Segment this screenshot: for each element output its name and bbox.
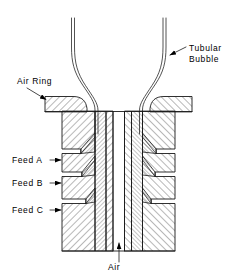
label-tubular-bubble: Tubular Bubble: [189, 43, 222, 65]
label-feed-c: Feed C: [12, 205, 43, 216]
label-feed-b: Feed B: [12, 178, 43, 189]
die-body-left: [62, 112, 95, 252]
label-air: Air: [108, 262, 120, 273]
label-air-ring: Air Ring: [17, 76, 52, 87]
die-body-right: [143, 112, 176, 252]
leader-tubular-bubble: [170, 47, 186, 55]
die-cross-section-drawing: [0, 0, 240, 278]
label-tubular-bubble-line2: Bubble: [189, 54, 222, 65]
leader-air-ring: [27, 88, 46, 100]
label-feed-a: Feed A: [12, 155, 43, 166]
blown-film-die-figure: Air Ring Tubular Bubble Feed A Feed B Fe…: [0, 0, 240, 278]
label-tubular-bubble-line1: Tubular: [189, 43, 222, 54]
central-air-bore: [113, 112, 125, 252]
air-ring-right: [150, 97, 192, 112]
air-ring-left: [45, 97, 87, 112]
